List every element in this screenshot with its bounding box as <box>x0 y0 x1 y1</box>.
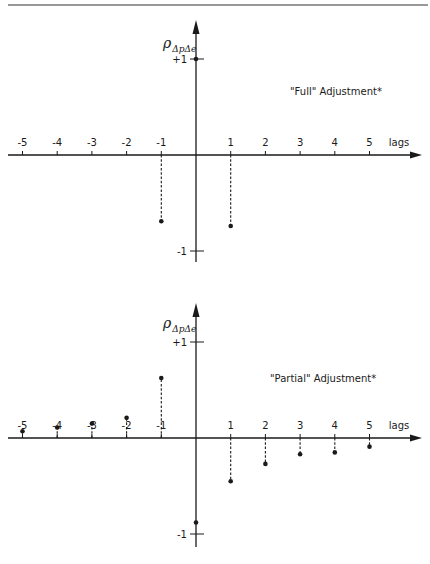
y-axis-label: ρΔpΔe <box>162 315 196 334</box>
x-axis-arrow-icon <box>410 152 422 159</box>
y-tick-label: -1 <box>177 529 187 540</box>
data-point <box>228 479 233 484</box>
x-axis-label: lags <box>389 137 409 148</box>
x-tick-label: 1 <box>228 137 234 148</box>
data-point <box>159 376 164 381</box>
x-tick-label: 4 <box>332 137 338 148</box>
y-axis-arrow-icon <box>193 20 200 34</box>
x-tick-label: 2 <box>262 137 268 148</box>
x-tick-label: 3 <box>297 420 303 431</box>
x-tick-label: 4 <box>332 420 338 431</box>
y-axis-arrow-icon <box>193 303 200 317</box>
x-tick-label: 5 <box>366 137 372 148</box>
data-point <box>228 224 233 229</box>
y-tick-label: +1 <box>172 54 187 65</box>
y-tick-label: -1 <box>177 246 187 257</box>
panel-full-adjustment: -5-4-3-2-112345lags+1-1ρΔpΔe"Full" Adjus… <box>8 20 422 262</box>
y-axis-label: ρΔpΔe <box>162 35 196 54</box>
x-tick-label: -5 <box>18 137 28 148</box>
data-point <box>298 452 303 457</box>
data-point <box>90 421 95 426</box>
data-point <box>194 57 199 62</box>
data-point <box>263 462 268 467</box>
data-point <box>20 429 25 434</box>
data-point <box>194 520 199 525</box>
x-tick-label: 3 <box>297 137 303 148</box>
panel-title: "Full" Adjustment* <box>290 86 382 97</box>
x-axis-label: lags <box>389 420 409 431</box>
x-tick-label: 5 <box>366 420 372 431</box>
y-tick-label: +1 <box>172 337 187 348</box>
x-tick-label: 2 <box>262 420 268 431</box>
data-point <box>333 450 338 455</box>
data-point <box>159 219 164 224</box>
x-tick-label: -1 <box>156 137 166 148</box>
x-tick-label: 1 <box>228 420 234 431</box>
data-point <box>367 444 372 449</box>
x-tick-label: -3 <box>87 137 97 148</box>
data-point <box>55 425 60 430</box>
panel-title: "Partial" Adjustment* <box>270 373 376 384</box>
x-tick-label: -2 <box>122 137 132 148</box>
figure: -5-4-3-2-112345lags+1-1ρΔpΔe"Full" Adjus… <box>0 0 430 564</box>
x-tick-label: -4 <box>52 137 62 148</box>
panel-partial-adjustment: -5-4-3-2-112345lags+1-1ρΔpΔe"Partial" Ad… <box>8 303 422 547</box>
data-point <box>124 416 129 421</box>
x-axis-arrow-icon <box>410 435 422 442</box>
